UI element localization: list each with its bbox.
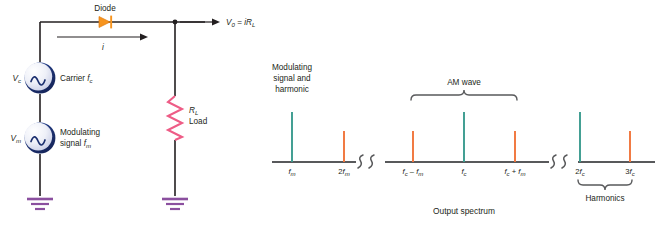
tick-label-fc: fc (461, 167, 466, 177)
annotation-harmonics: Harmonics (585, 194, 624, 203)
modulating-source-label-line2: signal fm (60, 139, 91, 149)
load-label: Load (189, 117, 208, 126)
spectral-lines (292, 112, 630, 162)
circuit-diagram: Diode i V0 = iRL Vc Carrier fc (10, 4, 255, 209)
modulating-source-symbol (24, 123, 55, 154)
harmonics-brace-icon (578, 180, 632, 190)
carrier-source-symbol (24, 63, 55, 94)
annotation-modulating-line2: signal and (273, 74, 311, 83)
modulating-voltage-label: Vm (10, 134, 21, 144)
spectrum-caption: Output spectrum (433, 206, 495, 216)
modulating-source-label-line1: Modulating (60, 128, 101, 137)
carrier-voltage-label: Vc (12, 74, 21, 84)
output-arrow-icon (180, 19, 220, 26)
axis-break-icon-2 (551, 155, 567, 168)
tick-label-3fc: 3fc (625, 167, 634, 177)
load-resistor-label: RL (189, 106, 198, 116)
ground-symbol-right (162, 199, 188, 209)
axis-break-icon-1 (358, 155, 374, 168)
diode-label: Diode (94, 4, 116, 13)
tick-label-fc-plus-fm: fc + fm (504, 167, 525, 177)
tick-label-2fc: 2fc (575, 167, 584, 177)
am-wave-brace-icon (411, 90, 517, 100)
tick-label-fm: fm (288, 167, 295, 177)
load-resistor-symbol (168, 96, 182, 140)
annotation-modulating-line1: Modulating (272, 63, 313, 72)
tick-label-2fm: 2fm (338, 167, 349, 177)
ground-symbol-left (27, 199, 53, 209)
carrier-source-label: Carrier fc (60, 74, 93, 84)
output-spectrum-chart: fm 2fm fc – fm fc fc + fm 2fc 3fc Modula… (272, 63, 655, 216)
am-modulator-figure: Diode i V0 = iRL Vc Carrier fc (0, 0, 661, 227)
annotation-am-wave: AM wave (447, 78, 481, 87)
annotation-modulating-line3: harmonic (275, 85, 309, 94)
junction-node (173, 20, 178, 25)
current-arrow-icon (57, 34, 148, 41)
output-voltage-label: V0 = iRL (226, 18, 255, 28)
tick-label-fc-minus-fm: fc – fm (403, 167, 424, 177)
current-label: i (102, 43, 104, 52)
diode-icon (99, 16, 112, 29)
